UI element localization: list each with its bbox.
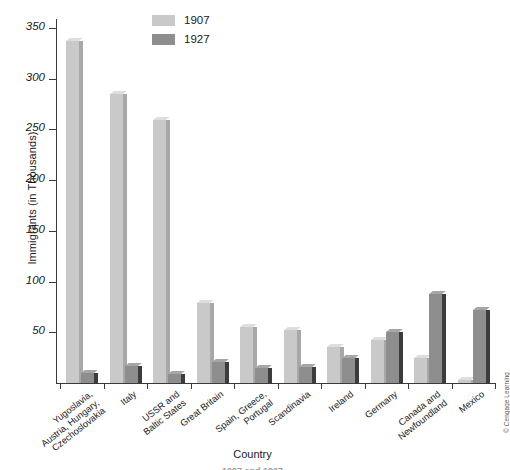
bar-1927[interactable]	[473, 310, 486, 383]
x-tick-8	[408, 384, 409, 389]
bar-group	[110, 13, 142, 383]
bar-front-face	[342, 358, 355, 383]
bar-front-face	[255, 368, 268, 383]
bar-front-face	[284, 330, 297, 383]
bar-1927[interactable]	[342, 358, 355, 383]
bar-side-face	[225, 362, 229, 383]
legend-item-1927: 1927	[152, 33, 210, 45]
bar-front-face	[386, 332, 399, 383]
y-tick-label-150: 150	[26, 223, 45, 235]
bar-side-face	[79, 41, 83, 383]
bar-front-face	[153, 120, 166, 383]
legend-swatch-1927-icon	[152, 34, 175, 45]
plot-area: 50100150200250300350	[56, 14, 496, 384]
bar-group	[414, 13, 446, 383]
x-tick-0	[60, 384, 61, 389]
bar-group	[197, 13, 229, 383]
bar-1927[interactable]	[81, 373, 94, 383]
legend-item-1907: 1907	[152, 14, 210, 26]
bar-side-face	[486, 310, 490, 383]
clipped-footer-text: 1907 and 1927	[0, 466, 505, 470]
y-tick-250: 250	[49, 129, 56, 130]
bar-front-face	[240, 327, 253, 383]
bar-front-face	[125, 366, 138, 383]
bar-group	[458, 13, 490, 383]
bar-side-face	[94, 373, 98, 383]
y-tick-label-100: 100	[26, 274, 45, 286]
legend: 1907 1927	[152, 14, 210, 52]
y-tick-label-350: 350	[26, 20, 45, 32]
x-tick-3	[191, 384, 192, 389]
y-tick-300: 300	[49, 79, 56, 80]
bar-front-face	[212, 362, 225, 383]
bar-side-face	[268, 368, 272, 383]
bar-front-face	[371, 340, 384, 383]
x-tick-4	[234, 384, 235, 389]
x-tick-1	[104, 384, 105, 389]
bar-front-face	[299, 367, 312, 383]
bar-1907[interactable]	[458, 380, 471, 383]
y-tick-50: 50	[49, 332, 56, 333]
y-tick-label-200: 200	[26, 172, 45, 184]
bar-group	[240, 13, 272, 383]
bar-side-face	[166, 120, 170, 383]
bar-group	[284, 13, 316, 383]
bar-front-face	[458, 380, 471, 383]
copyright-credit: © Cengage Learning	[503, 372, 510, 433]
bar-front-face	[66, 41, 79, 383]
bar-1927[interactable]	[168, 374, 181, 383]
bar-front-face	[168, 374, 181, 383]
y-axis-line	[56, 19, 57, 383]
y-tick-label-50: 50	[32, 324, 45, 336]
y-tick-350: 350	[49, 28, 56, 29]
bar-side-face	[138, 366, 142, 383]
bar-1907[interactable]	[371, 340, 384, 383]
bar-front-face	[429, 294, 442, 383]
bar-1907[interactable]	[197, 303, 210, 383]
bar-1907[interactable]	[284, 330, 297, 383]
bar-1907[interactable]	[240, 327, 253, 383]
bar-1927[interactable]	[125, 366, 138, 383]
bar-1907[interactable]	[327, 347, 340, 384]
bar-group	[371, 13, 403, 383]
y-tick-100: 100	[49, 282, 56, 283]
x-axis-title: Country	[0, 448, 505, 460]
bar-group	[66, 13, 98, 383]
y-tick-label-300: 300	[26, 71, 45, 83]
legend-label-1907: 1907	[184, 14, 210, 26]
x-tick-6	[321, 384, 322, 389]
x-tick-7	[365, 384, 366, 389]
legend-swatch-1907-icon	[152, 15, 175, 26]
bar-side-face	[399, 332, 403, 383]
bar-front-face	[81, 373, 94, 383]
bar-side-face	[181, 374, 185, 383]
x-tick-5	[278, 384, 279, 389]
x-tick-2	[147, 384, 148, 389]
bar-1927[interactable]	[212, 362, 225, 383]
bar-1907[interactable]	[66, 41, 79, 383]
bar-front-face	[197, 303, 210, 383]
bar-1927[interactable]	[299, 367, 312, 383]
x-axis-line	[56, 383, 496, 384]
bar-side-face	[442, 294, 446, 383]
bar-front-face	[473, 310, 486, 383]
x-tick-end	[495, 384, 496, 389]
bar-1907[interactable]	[153, 120, 166, 383]
bar-group	[153, 13, 185, 383]
bar-1907[interactable]	[110, 94, 123, 383]
bar-1927[interactable]	[386, 332, 399, 383]
y-tick-150: 150	[49, 231, 56, 232]
bar-front-face	[414, 358, 427, 383]
bar-side-face	[312, 367, 316, 383]
bar-side-face	[123, 94, 127, 383]
x-tick-9	[452, 384, 453, 389]
y-tick-label-250: 250	[26, 121, 45, 133]
bar-1927[interactable]	[255, 368, 268, 383]
bar-1927[interactable]	[429, 294, 442, 383]
bar-1907[interactable]	[414, 358, 427, 383]
legend-label-1927: 1927	[184, 33, 210, 45]
y-tick-200: 200	[49, 180, 56, 181]
bar-group	[327, 13, 359, 383]
bar-front-face	[327, 347, 340, 384]
